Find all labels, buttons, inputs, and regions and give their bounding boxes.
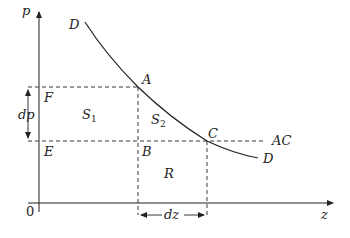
curve-label-end: D — [262, 151, 274, 166]
point-c-label: C — [208, 126, 218, 141]
line-ac-label: AC — [271, 133, 291, 148]
point-f-label: F — [43, 90, 54, 105]
region-s1-label: S1 — [82, 107, 97, 124]
x-axis-label: z — [320, 207, 328, 222]
point-e-label: E — [43, 144, 54, 159]
point-b-label: B — [141, 144, 152, 159]
origin-label: 0 — [26, 204, 34, 219]
region-s2-label: S2 — [151, 112, 166, 129]
region-r-label: R — [163, 166, 174, 181]
pressure-depth-diagram: p z 0 D D A B C E F S1 S2 R AC dp dz — [0, 0, 350, 238]
curve-label-start: D — [68, 17, 80, 32]
dp-label: dp — [18, 107, 35, 122]
curve-dd — [85, 22, 258, 158]
dz-label: dz — [164, 207, 179, 222]
y-axis-label: p — [22, 3, 31, 18]
point-a-label: A — [141, 72, 151, 87]
